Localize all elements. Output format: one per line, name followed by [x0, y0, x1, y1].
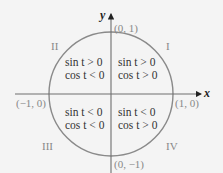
point-label-left: (−1, 0): [16, 97, 46, 110]
point-label-right: (1, 0): [175, 97, 199, 110]
diagram-canvas: x y (0, 1) (0, −1) (−1, 0) (1, 0) I II I…: [0, 0, 223, 173]
quadrant-numeral-4: IV: [166, 140, 178, 152]
quadrant-3-cos: cos t < 0: [65, 119, 105, 131]
x-axis-label: x: [203, 86, 210, 100]
quadrant-2-sin: sin t > 0: [65, 56, 103, 68]
quadrant-2-cos: cos t < 0: [65, 69, 105, 81]
quadrant-4-sin: sin t < 0: [118, 106, 156, 118]
quadrant-numeral-3: III: [42, 140, 53, 152]
unit-circle-diagram: x y (0, 1) (0, −1) (−1, 0) (1, 0) I II I…: [0, 0, 223, 173]
point-label-top: (0, 1): [114, 22, 138, 35]
y-axis-label: y: [98, 8, 106, 22]
quadrant-4-cos: cos t > 0: [118, 119, 158, 131]
quadrant-numeral-2: II: [51, 40, 59, 52]
quadrant-3-sin: sin t < 0: [65, 106, 103, 118]
quadrant-numeral-1: I: [166, 40, 170, 52]
quadrant-1-sin: sin t > 0: [118, 56, 156, 68]
quadrant-1-cos: cos t > 0: [118, 69, 158, 81]
point-label-bottom: (0, −1): [114, 158, 144, 171]
